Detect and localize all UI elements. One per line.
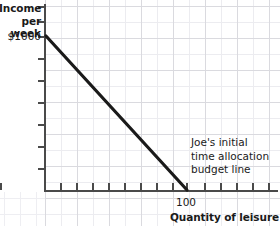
x-axis-tick	[76, 183, 78, 190]
x-axis-tick	[60, 183, 62, 190]
y-axis-tick	[38, 168, 45, 170]
x-axis-tick	[220, 183, 222, 190]
y-axis-tick	[38, 124, 45, 126]
x-axis-tick	[268, 183, 270, 190]
chart-grid-lower-left	[0, 192, 45, 226]
x-axis-tick	[172, 183, 174, 190]
x-axis-tick	[108, 183, 110, 190]
budget-line-annotation: Joe's initial time allocation budget lin…	[191, 136, 269, 177]
annotation-line1: Joe's initial	[191, 136, 269, 150]
budget-line-chart: Income per week $1000 100 Quantity of le…	[0, 0, 280, 226]
x-axis-tick	[156, 183, 158, 190]
y-axis-tick	[38, 58, 45, 60]
x-axis-label: Quantity of leisure	[170, 211, 279, 223]
x-axis-tick	[0, 183, 2, 190]
y-axis-tick	[38, 146, 45, 148]
x-axis-tick	[252, 183, 254, 190]
x-intercept-label: 100	[168, 196, 204, 208]
y-axis-label-line1: Income	[0, 2, 41, 15]
y-intercept-label: $1000	[0, 30, 41, 42]
x-axis-tick	[140, 183, 142, 190]
x-axis-tick	[236, 183, 238, 190]
x-axis	[44, 190, 278, 192]
x-axis-tick	[92, 183, 94, 190]
y-axis	[44, 4, 46, 192]
x-axis-tick-100	[186, 183, 188, 190]
chart-grid-major	[44, 0, 280, 226]
y-axis-tick	[38, 102, 45, 104]
y-axis-tick	[38, 80, 45, 82]
x-axis-tick	[204, 183, 206, 190]
annotation-line3: budget line	[191, 163, 269, 177]
x-axis-tick	[124, 183, 126, 190]
annotation-line2: time allocation	[191, 150, 269, 164]
